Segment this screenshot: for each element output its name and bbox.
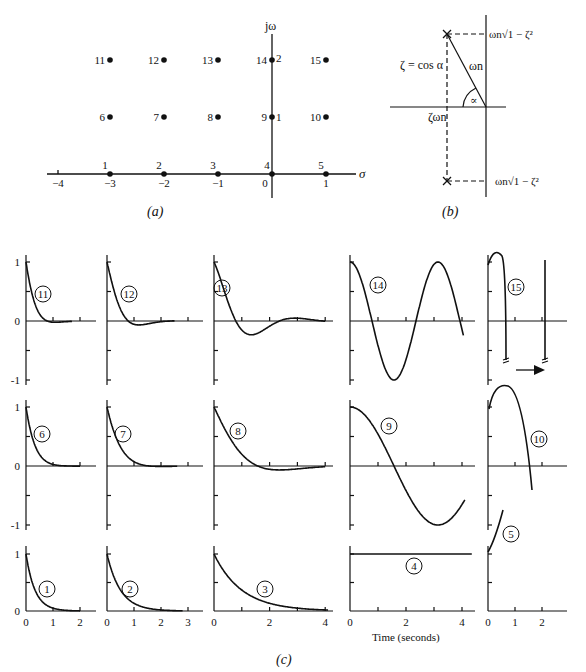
x-tick: 4 xyxy=(459,616,465,628)
alpha-label: ∝ xyxy=(470,94,477,106)
response-label: 4 xyxy=(411,560,417,572)
pole-label: 6 xyxy=(100,111,106,123)
response-label: 1 xyxy=(44,583,50,595)
sigma-tick: 1 xyxy=(323,177,329,189)
x-tick: 0 xyxy=(347,616,353,628)
x-tick: 1 xyxy=(131,616,137,628)
response-label: 10 xyxy=(534,433,546,445)
y-tick: 0 xyxy=(15,605,21,617)
jw-mark: 1 xyxy=(276,111,282,123)
response-label: 14 xyxy=(373,279,385,291)
pole-label: 13 xyxy=(202,54,214,66)
zeta-omega-label: ζωn xyxy=(428,110,446,124)
pole-label: 12 xyxy=(148,54,159,66)
response-label: 13 xyxy=(217,282,229,294)
pole-points: 12345678910111213141512 xyxy=(94,52,328,177)
response-labels: 10-110-110012012302402401212345678910111… xyxy=(11,256,547,628)
response-curves xyxy=(26,253,548,611)
response-label: 8 xyxy=(235,425,241,437)
lower-imag-label: ωn√1 − ζ² xyxy=(495,175,540,188)
x-tick: 0 xyxy=(23,616,29,628)
x-tick: 1 xyxy=(512,616,518,628)
pole-dot xyxy=(107,57,113,63)
caption-b: (b) xyxy=(442,204,459,220)
y-tick: 1 xyxy=(15,548,21,560)
sigma-tick: −1 xyxy=(212,177,224,189)
pole-dot xyxy=(107,114,113,120)
x-tick: 4 xyxy=(322,616,328,628)
response-curve-11 xyxy=(26,262,72,322)
sigma-tick: 0 xyxy=(262,177,268,189)
sigma-axis-label: σ xyxy=(359,166,366,181)
pole-dot xyxy=(269,57,275,63)
zeta-label: ζ = cos α xyxy=(400,58,444,72)
response-label: 3 xyxy=(262,583,268,595)
pole-dot xyxy=(215,114,221,120)
x-tick: 0 xyxy=(485,616,491,628)
pole-label: 8 xyxy=(208,111,214,123)
x-tick: 2 xyxy=(158,616,164,628)
x-tick: 2 xyxy=(267,616,273,628)
response-label: 15 xyxy=(511,281,523,293)
response-curve-3 xyxy=(214,554,328,610)
response-curve-8 xyxy=(214,407,325,470)
response-curve-13 xyxy=(214,262,325,335)
response-curve-12 xyxy=(107,262,175,325)
x-tick: 0 xyxy=(104,616,110,628)
response-curve-7 xyxy=(107,407,177,467)
sigma-tick: −4 xyxy=(52,177,64,189)
jw-mark: 2 xyxy=(276,52,282,64)
arrow-icon xyxy=(516,365,545,375)
pole-dot xyxy=(269,114,275,120)
pole-label: 3 xyxy=(210,159,216,171)
response-label: 7 xyxy=(120,428,126,440)
response-label: 9 xyxy=(386,420,392,432)
pole-label: 7 xyxy=(154,111,160,123)
pole-dot xyxy=(323,57,329,63)
x-tick: 2 xyxy=(403,616,409,628)
response-label: 6 xyxy=(39,428,45,440)
y-tick: -1 xyxy=(11,519,20,531)
pole-dot xyxy=(323,114,329,120)
response-curve-15 xyxy=(488,253,506,360)
response-label: 12 xyxy=(124,288,135,300)
response-label: 2 xyxy=(127,583,133,595)
y-tick: 1 xyxy=(15,401,21,413)
response-curve-2 xyxy=(107,554,183,611)
pole-dot xyxy=(323,171,329,177)
omega-n-label: ωn xyxy=(469,59,483,73)
x-tick: 2 xyxy=(539,616,545,628)
pole-label: 11 xyxy=(94,54,105,66)
x-tick: 2 xyxy=(77,616,83,628)
sigma-tick: −2 xyxy=(158,177,170,189)
pole-label: 4 xyxy=(264,159,270,171)
response-label: 5 xyxy=(508,528,514,540)
panel-b-geometry xyxy=(390,15,506,197)
pole-dot xyxy=(161,171,167,177)
caption-c: (c) xyxy=(276,652,292,668)
response-label: 11 xyxy=(38,288,49,300)
figure-canvas: 12345678910111213141512 σ jω −4−3−2−101 … xyxy=(0,0,586,672)
x-tick: 1 xyxy=(50,616,56,628)
pole-dot xyxy=(269,171,275,177)
jw-axis-label: jω xyxy=(264,19,276,33)
caption-a: (a) xyxy=(147,204,164,220)
pole-label: 14 xyxy=(256,54,268,66)
pole-dot xyxy=(107,171,113,177)
pole-label: 9 xyxy=(262,111,268,123)
y-tick: 1 xyxy=(15,256,21,268)
pole-dot xyxy=(215,171,221,177)
y-tick: 0 xyxy=(15,460,21,472)
pole-dot xyxy=(161,57,167,63)
pole-dot xyxy=(215,57,221,63)
pole-dot xyxy=(161,114,167,120)
x-tick: 0 xyxy=(211,616,217,628)
response-curve-1 xyxy=(26,554,80,611)
response-curve-5 xyxy=(488,510,503,552)
pole-label: 10 xyxy=(310,111,322,123)
upper-imag-label: ωn√1 − ζ² xyxy=(489,28,534,41)
y-tick: -1 xyxy=(11,374,20,386)
x-tick: 3 xyxy=(185,616,191,628)
time-axis-label: Time (seconds) xyxy=(372,631,440,644)
y-tick: 0 xyxy=(15,315,21,327)
